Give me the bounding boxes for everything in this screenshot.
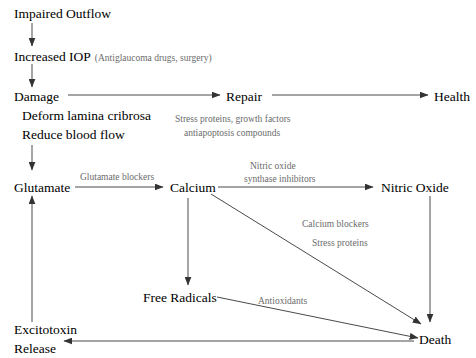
node-label: Excitotoxin	[14, 322, 77, 337]
node-label: Glutamate	[14, 180, 70, 195]
annotation-stress-proteins: Stress proteins	[312, 237, 368, 251]
annotation-label: antiapoptosis compounds	[184, 128, 280, 138]
annotation-label: Stress proteins, growth factors	[175, 114, 291, 124]
node-label: Nitric Oxide	[381, 180, 449, 195]
node-nitric-oxide: Nitric Oxide	[381, 178, 449, 198]
edge-calcium-to-death	[211, 194, 421, 324]
node-label: Repair	[226, 89, 262, 104]
annotation-nos-inhibitors-line1: Nitric oxide	[250, 160, 296, 174]
node-label: Deform lamina cribrosa	[22, 108, 151, 123]
node-health: Health	[434, 87, 470, 107]
annotation-calcium-blockers: Calcium blockers	[302, 218, 369, 232]
annotation-glutamate-blockers: Glutamate blockers	[80, 171, 154, 185]
annotation-iop-treatment: (Antiglaucoma drugs, surgery)	[91, 53, 212, 63]
node-free-radicals: Free Radicals	[143, 288, 217, 308]
annotation-repair-agents-line2: antiapoptosis compounds	[184, 127, 280, 141]
node-impaired-outflow: Impaired Outflow	[14, 4, 111, 24]
node-label: Reduce blood flow	[22, 127, 125, 142]
node-excitotoxin-release-line1: Excitotoxin	[14, 320, 77, 340]
node-repair: Repair	[226, 87, 262, 107]
annotation-repair-agents-line1: Stress proteins, growth factors	[175, 113, 291, 127]
node-glutamate: Glutamate	[14, 178, 70, 198]
node-label: Impaired Outflow	[14, 6, 111, 21]
pathway-diagram: Impaired Outflow Increased IOP(Antiglauc…	[0, 0, 476, 358]
annotation-antioxidants: Antioxidants	[258, 295, 307, 309]
annotation-label: Stress proteins	[312, 238, 368, 248]
node-increased-iop: Increased IOP(Antiglaucoma drugs, surger…	[14, 47, 212, 67]
node-label: Free Radicals	[143, 290, 217, 305]
node-label: Damage	[14, 89, 59, 104]
annotation-nos-inhibitors-line2: synthase inhibitors	[244, 173, 316, 187]
annotation-label: Nitric oxide	[250, 161, 296, 171]
node-death: Death	[419, 330, 451, 350]
annotation-label: synthase inhibitors	[244, 174, 316, 184]
node-label: Release	[14, 341, 56, 356]
node-damage-detail-2: Reduce blood flow	[22, 125, 125, 145]
node-label: Increased IOP	[14, 49, 91, 64]
annotation-label: Antioxidants	[258, 296, 307, 306]
node-label: Calcium	[170, 180, 216, 195]
annotation-label: Calcium blockers	[302, 219, 369, 229]
node-label: Health	[434, 89, 470, 104]
node-damage-detail-1: Deform lamina cribrosa	[22, 106, 151, 126]
annotation-label: Glutamate blockers	[80, 172, 154, 182]
node-label: Death	[419, 332, 451, 347]
edge-free-radicals-to-death	[217, 297, 418, 338]
node-excitotoxin-release-line2: Release	[14, 339, 56, 358]
node-damage: Damage	[14, 87, 59, 107]
node-calcium: Calcium	[170, 178, 216, 198]
